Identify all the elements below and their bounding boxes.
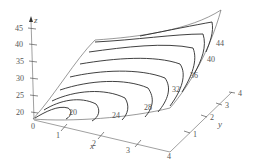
- z-tick-35: 35: [16, 57, 24, 66]
- z-tick-40: 40: [15, 40, 23, 49]
- z-axis-label: z: [33, 15, 38, 25]
- x-axis: 1 2 3 4 x: [34, 120, 171, 159]
- y-axis: 1 2 3 4 y: [170, 89, 242, 152]
- surface-plot-figure: 20 24 28 32 36 40 44 z 45 40 35 30 25 20…: [0, 0, 257, 159]
- y-tick-1: 1: [193, 130, 197, 139]
- z-tick-30: 30: [16, 74, 24, 83]
- contour-label-44: 44: [216, 39, 224, 48]
- x-tick-3: 3: [126, 146, 130, 155]
- z-axis: z 45 40 35 30 25 20: [15, 15, 38, 119]
- y-tick-2: 2: [210, 113, 214, 122]
- y-tick-3: 3: [225, 101, 229, 110]
- contour-label-28: 28: [144, 103, 152, 112]
- y-axis-label: y: [217, 119, 222, 129]
- z-tick-25: 25: [16, 91, 24, 100]
- x-axis-label: x: [89, 141, 94, 151]
- x-tick-1: 1: [56, 131, 60, 140]
- y-tick-4: 4: [238, 89, 242, 98]
- contour-label-40: 40: [207, 55, 215, 64]
- z-tick-20: 20: [16, 108, 24, 117]
- contour-label-24: 24: [112, 111, 120, 120]
- z-tick-45: 45: [15, 24, 23, 33]
- origin-label: 0: [31, 122, 35, 131]
- z-axis-arrow-icon: [29, 16, 33, 22]
- contour-label-36: 36: [190, 71, 198, 80]
- contour-label-32: 32: [172, 85, 180, 94]
- x-tick-4: 4: [167, 152, 171, 159]
- surface: [33, 10, 221, 120]
- contour-label-20: 20: [69, 108, 77, 117]
- surface-plot: 20 24 28 32 36 40 44 z 45 40 35 30 25 20…: [0, 0, 257, 159]
- contour-lines: [35, 22, 213, 121]
